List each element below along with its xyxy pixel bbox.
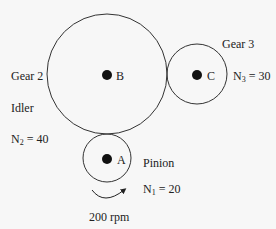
- gear-drawing: [0, 0, 276, 229]
- center-label-c: C: [207, 70, 215, 82]
- input-speed-label: 200 rpm: [89, 211, 129, 223]
- gear3-teeth: N3 = 30: [233, 70, 270, 82]
- gear-train-diagram: Gear 2 Idler N2 = 40 B Gear 3 C N3 = 30 …: [0, 0, 276, 229]
- pinion-teeth: N1 = 20: [143, 183, 180, 195]
- hub-c-icon: [192, 70, 202, 80]
- gear2-name: Gear 2: [11, 70, 43, 82]
- hub-b-icon: [102, 70, 112, 80]
- center-label-a: A: [117, 154, 126, 166]
- hub-a-icon: [102, 154, 112, 164]
- pinion-name: Pinion: [143, 157, 174, 169]
- gear2-role: Idler: [11, 102, 34, 114]
- gear2-teeth: N2 = 40: [11, 133, 48, 145]
- center-label-b: B: [116, 70, 124, 82]
- rotation-arrow-icon: [92, 190, 124, 198]
- gear3-name: Gear 3: [222, 38, 254, 50]
